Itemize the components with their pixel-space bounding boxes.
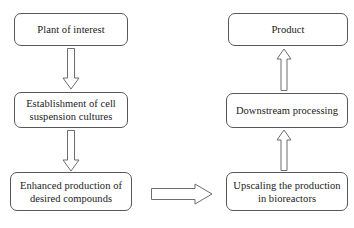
arrow-plant-to-establishment: [62, 48, 80, 90]
arrow-downstream-to-product: [275, 48, 293, 91]
node-enhanced-production-of-desired-compounds: Enhanced production of desired compounds: [10, 172, 132, 211]
node-label: Downstream processing: [236, 104, 338, 117]
node-downstream-processing: Downstream processing: [226, 93, 348, 128]
arrow-enhanced-to-upscaling: [151, 183, 213, 205]
node-plant-of-interest: Plant of interest: [14, 13, 128, 46]
arrow-upscaling-to-downstream: [275, 129, 293, 171]
node-label: Establishment of cell suspension culture…: [26, 97, 116, 123]
node-label: Product: [271, 23, 304, 36]
node-label: Enhanced production of desired compounds: [20, 179, 122, 205]
node-upscaling-the-production-in-bioreactors: Upscaling the production in bioreactors: [226, 172, 348, 211]
node-label: Upscaling the production in bioreactors: [233, 179, 340, 205]
node-label: Plant of interest: [37, 23, 104, 36]
flowchart-diagram: Plant of interest Establishment of cell …: [0, 0, 354, 228]
node-establishment-of-cell-suspension-cultures: Establishment of cell suspension culture…: [14, 92, 128, 128]
node-product: Product: [228, 13, 348, 46]
arrow-establishment-to-enhanced: [62, 130, 80, 172]
